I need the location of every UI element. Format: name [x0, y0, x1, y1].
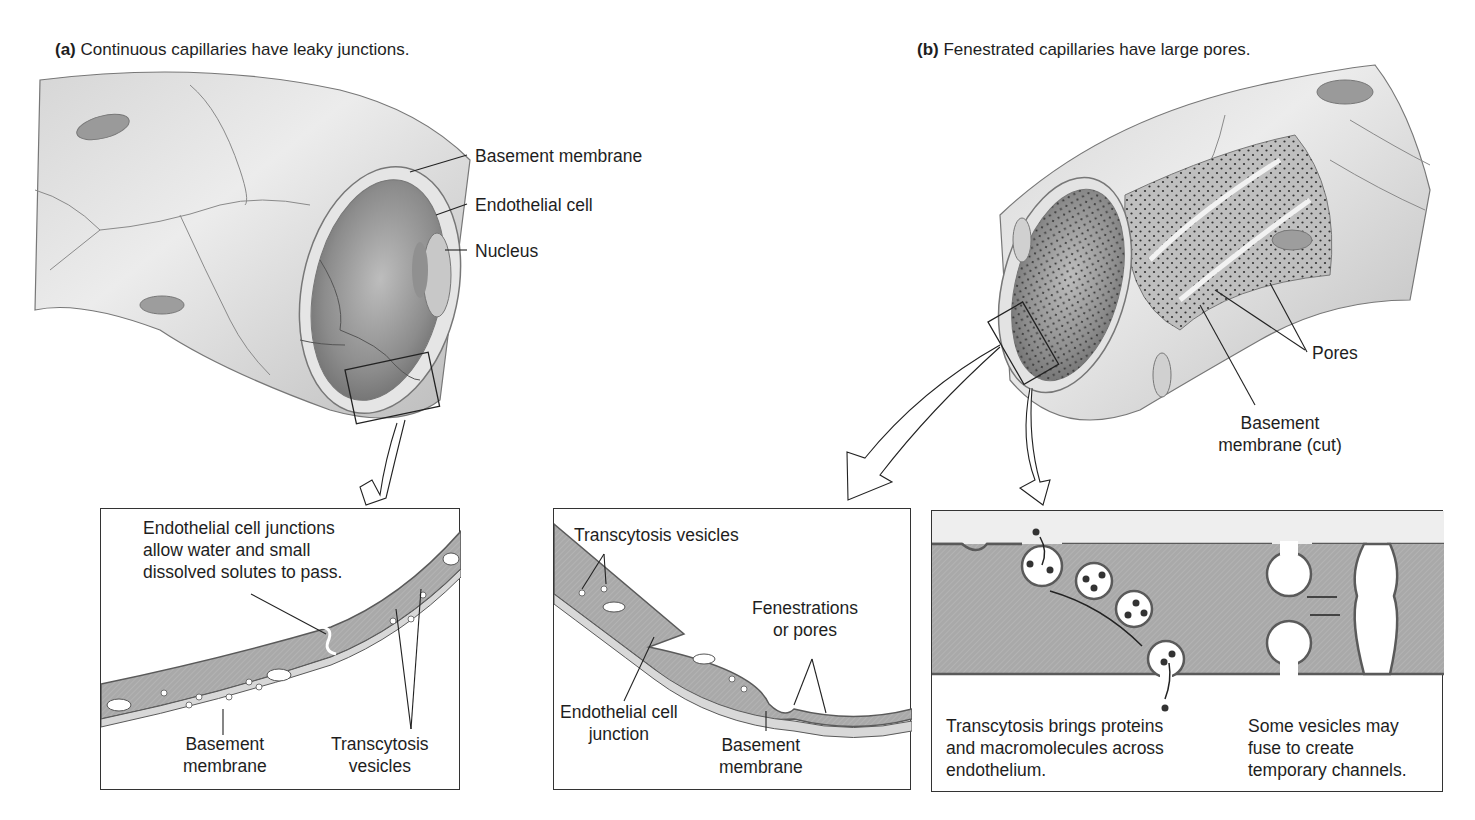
junction-line-2: junction — [560, 723, 678, 745]
vesicles-line-2: vesicles — [331, 755, 429, 777]
transcytosis-detail-panel: Transcytosis brings proteins and macromo… — [931, 510, 1443, 792]
basement-line-1: Basement — [183, 733, 267, 755]
label-endothelial-cell: Endothelial cell — [475, 194, 593, 216]
transcytosis-note-line-1: Transcytosis brings proteins — [946, 715, 1164, 737]
vesicles-line-1: Transcytosis — [331, 733, 429, 755]
continuous-capillary — [35, 72, 482, 505]
label-nucleus: Nucleus — [475, 240, 538, 262]
channels-note-line-3: temporary channels. — [1248, 759, 1407, 781]
basement-cut-line-1: Basement — [1200, 412, 1360, 434]
transcytosis-note-line-3: endothelium. — [946, 759, 1164, 781]
label-endothelial-cell-junction: Endothelial cell junction — [560, 701, 678, 745]
transcytosis-note-line-2: and macromolecules across — [946, 737, 1164, 759]
junction-note-line-3: dissolved solutes to pass. — [143, 561, 342, 583]
label-pores: Pores — [1312, 342, 1358, 364]
fenestrations-line-1: Fenestrations — [752, 597, 858, 619]
label-basement-membrane-a: Basement membrane — [183, 733, 267, 777]
basement-cut-line-2: membrane (cut) — [1200, 434, 1360, 456]
channels-note: Some vesicles may fuse to create tempora… — [1248, 715, 1407, 781]
continuous-detail-panel: Endothelial cell junctions allow water a… — [100, 508, 460, 790]
basement-b-line-2: membrane — [719, 756, 803, 778]
junction-note: Endothelial cell junctions allow water a… — [143, 517, 342, 583]
label-basement-membrane-b: Basement membrane — [719, 734, 803, 778]
label-basement-membrane: Basement membrane — [475, 145, 642, 167]
fenestrations-line-2: or pores — [752, 619, 858, 641]
basement-line-2: membrane — [183, 755, 267, 777]
label-fenestrations: Fenestrations or pores — [752, 597, 858, 641]
junction-note-line-1: Endothelial cell junctions — [143, 517, 342, 539]
junction-note-line-2: allow water and small — [143, 539, 342, 561]
label-transcytosis-vesicles-a: Transcytosis vesicles — [331, 733, 429, 777]
basement-b-line-1: Basement — [719, 734, 803, 756]
transcytosis-note: Transcytosis brings proteins and macromo… — [946, 715, 1164, 781]
label-basement-membrane-cut: Basement membrane (cut) — [1200, 412, 1360, 456]
channels-note-line-1: Some vesicles may — [1248, 715, 1407, 737]
channels-note-line-2: fuse to create — [1248, 737, 1407, 759]
junction-line-1: Endothelial cell — [560, 701, 678, 723]
label-transcytosis-vesicles-b: Transcytosis vesicles — [574, 524, 739, 546]
fenestrated-detail-panel: Transcytosis vesicles Fenestrations or p… — [553, 508, 911, 790]
